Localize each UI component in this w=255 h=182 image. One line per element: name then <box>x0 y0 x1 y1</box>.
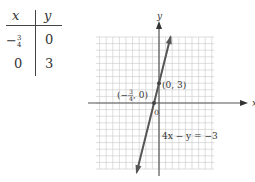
coordinate-graph: x y 0 (0, 3) 4x − y = −3 (− 3 4 , 0) <box>0 0 255 182</box>
svg-text:(−: (− <box>117 90 128 100</box>
point-neg3-4-0 <box>152 101 156 105</box>
y-axis-label: y <box>156 11 163 21</box>
equation-label: 4x − y = −3 <box>162 131 218 141</box>
line-arrow-up-icon <box>166 35 172 44</box>
point1-label: (0, 3) <box>162 80 186 90</box>
x-axis-label: x <box>252 98 255 108</box>
origin-label: 0 <box>154 108 159 117</box>
x-axis-arrow-icon <box>240 100 248 106</box>
point2-label: (− 3 4 , 0) <box>117 88 148 102</box>
y-axis-arrow-icon <box>156 21 162 29</box>
svg-text:, 0): , 0) <box>133 90 148 100</box>
point-0-3 <box>157 81 161 85</box>
line-arrow-down-icon <box>136 165 142 174</box>
